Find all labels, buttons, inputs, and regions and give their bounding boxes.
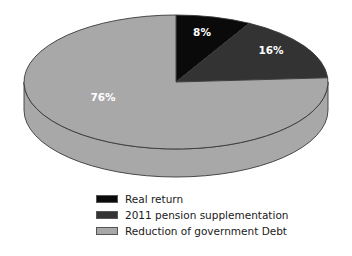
legend-label-real-return: Real return xyxy=(125,191,183,207)
legend-label-reduction-government-debt: Reduction of government Debt xyxy=(125,223,287,239)
pie-chart-figure: 8%16%76% Real return 2011 pension supple… xyxy=(0,0,352,256)
legend-item-real-return: Real return xyxy=(96,191,326,207)
legend-item-pension-supplementation: 2011 pension supplementation xyxy=(96,207,326,223)
pie-slices xyxy=(24,15,328,149)
legend-swatch-reduction-government-debt xyxy=(96,227,118,235)
chart-legend: Real return 2011 pension supplementation… xyxy=(96,191,326,239)
pie-chart-graphic: 8%16%76% xyxy=(0,0,352,200)
legend-item-reduction-government-debt: Reduction of government Debt xyxy=(96,223,326,239)
legend-swatch-real-return xyxy=(96,195,118,203)
pie-slice-label: 76% xyxy=(90,91,116,103)
legend-swatch-pension-supplementation xyxy=(96,211,118,219)
pie-slice-label: 16% xyxy=(258,44,284,56)
pie-slice-label: 8% xyxy=(193,26,211,38)
legend-label-pension-supplementation: 2011 pension supplementation xyxy=(125,207,288,223)
